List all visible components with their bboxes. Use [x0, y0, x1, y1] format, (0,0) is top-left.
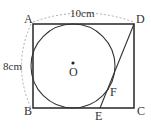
label-e: E: [95, 109, 102, 123]
label-f: F: [110, 85, 117, 99]
dimension-left-label: 8cm: [3, 60, 22, 72]
segment-de: [100, 24, 134, 108]
label-o: O: [69, 65, 78, 79]
geometry-figure: A D B C E F O 10cm 8cm: [0, 0, 151, 130]
dimension-top-label: 10cm: [70, 7, 95, 19]
rectangle-abcd: [33, 24, 134, 108]
label-a: A: [24, 12, 33, 26]
left-dimension-arc: [22, 24, 32, 108]
label-c: C: [137, 104, 145, 118]
label-d: D: [136, 12, 145, 26]
label-b: B: [24, 104, 32, 118]
